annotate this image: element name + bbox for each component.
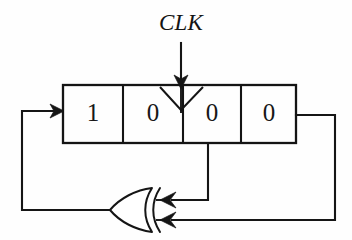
clock-label: CLK	[159, 10, 205, 35]
feedback-wire-path	[22, 111, 110, 210]
feedback-wire-right	[160, 115, 335, 228]
diagram-canvas: 1 0 0 0 CLK	[0, 0, 352, 240]
clock-input-group	[174, 43, 188, 89]
xor-gate-extra-arc	[153, 188, 160, 232]
xor-gate-body	[110, 188, 152, 232]
lfsr-diagram: 1 0 0 0 CLK	[0, 0, 352, 240]
tap-wire-cell3-path	[172, 143, 208, 200]
xor-gate	[110, 188, 166, 232]
register-cell-3-value: 0	[206, 99, 219, 126]
clock-trigger-marker	[160, 85, 203, 113]
register-cell-4-value: 0	[263, 99, 276, 126]
tap-wire-cell3	[160, 143, 208, 208]
register-cell-2-value: 0	[147, 99, 160, 126]
feedback-wire-right-path	[172, 115, 335, 220]
register-cell-1-value: 1	[87, 99, 100, 126]
